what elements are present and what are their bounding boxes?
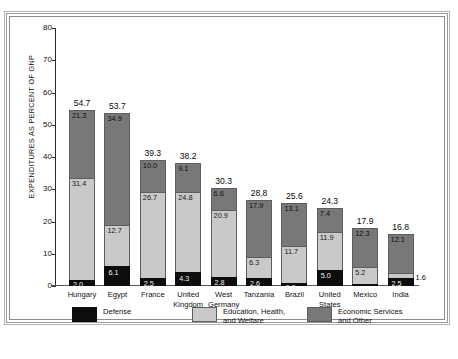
legend-swatch — [72, 307, 97, 322]
bar-total-label: 53.7 — [104, 101, 130, 111]
bar-segment-education: 26.7 — [140, 192, 166, 278]
chart-frame: EXPENDITURES AS PERCENT OF GNP 010203040… — [6, 13, 448, 323]
bar-total-label: 38.2 — [175, 151, 201, 161]
plot-area: 01020304050607080 54.721.331.42.0Hungary… — [55, 28, 427, 286]
segment-value-label: 6.1 — [108, 269, 118, 276]
segment-value-label: 5.0 — [321, 272, 331, 279]
bar-segment-education: 12.7 — [104, 225, 130, 266]
bar-united-kingdom[interactable]: 38.29.124.84.3 — [175, 163, 201, 286]
bar-egypt[interactable]: 53.734.912.76.1 — [104, 113, 130, 286]
bar-segment-education: 20.9 — [211, 210, 237, 277]
bar-segment-defense: 2.6 — [246, 278, 272, 286]
legend-swatch — [192, 307, 217, 322]
bar-segment-defense: 6.1 — [104, 266, 130, 286]
bar-united-states[interactable]: 24.37.411.95.0 — [317, 208, 343, 286]
legend-item-defense[interactable]: Defense — [72, 307, 131, 322]
segment-value-label: 11.9 — [320, 234, 334, 241]
bar-total-label: 54.7 — [69, 98, 95, 108]
y-tick-mark — [52, 254, 56, 255]
y-tick-mark — [52, 93, 56, 94]
segment-value-label: 6.3 — [249, 259, 259, 266]
y-tick-label: 80 — [34, 24, 52, 32]
bar-total-label: 25.6 — [281, 191, 307, 201]
segment-value-label: 12.3 — [355, 230, 369, 237]
segment-value-label: 24.8 — [178, 194, 192, 201]
bar-total-label: 28.8 — [246, 188, 272, 198]
segment-value-label: 2.5 — [144, 280, 154, 287]
bar-segment-defense: 2.8 — [211, 277, 237, 286]
bar-segment-defense: 2.0 — [69, 280, 95, 286]
segment-value-label: 1.6 — [416, 274, 426, 281]
bar-segment-economic: 10.0 — [140, 160, 166, 192]
y-tick-label: 70 — [34, 56, 52, 64]
segment-value-label: 10.0 — [143, 162, 157, 169]
y-tick-mark — [52, 189, 56, 190]
bar-hungary[interactable]: 54.721.331.42.0 — [69, 110, 95, 286]
bar-segment-education: 31.4 — [69, 178, 95, 279]
legend-label: Economic Servicesand Other — [338, 307, 403, 326]
y-tick-label: 60 — [34, 89, 52, 97]
bar-segment-education: 11.7 — [281, 246, 307, 284]
bar-segment-economic: 34.9 — [104, 113, 130, 226]
segment-value-label: 12.7 — [107, 227, 121, 234]
bar-tanzania[interactable]: 28.817.96.32.6 — [246, 200, 272, 286]
segment-value-label: 4.3 — [179, 275, 189, 282]
bar-brazil[interactable]: 25.613.111.70.8 — [281, 203, 307, 286]
bar-total-label: 39.3 — [140, 148, 166, 158]
bar-segment-education: 6.3 — [246, 257, 272, 277]
bar-segment-education: 24.8 — [175, 192, 201, 272]
bar-mexico[interactable]: 17.912.35.20.4 — [352, 228, 378, 286]
legend-item-economic-services[interactable]: Economic Servicesand Other — [307, 307, 403, 326]
y-tick-mark — [52, 60, 56, 61]
legend-swatch — [307, 307, 332, 322]
segment-value-label: 2.5 — [392, 280, 402, 287]
chart-legend: DefenseEducation, Health,and WelfareEcon… — [7, 295, 447, 331]
segment-value-label: 6.6 — [214, 190, 224, 197]
y-tick-label: 50 — [34, 121, 52, 129]
segment-value-label: 9.1 — [178, 165, 188, 172]
bar-segment-economic: 13.1 — [281, 203, 307, 245]
y-tick-label: 30 — [34, 185, 52, 193]
segment-value-label: 34.9 — [107, 115, 121, 122]
y-tick-label: 20 — [34, 218, 52, 226]
bar-segment-defense: 2.5 — [140, 278, 166, 286]
segment-value-label: 2.0 — [73, 281, 83, 288]
segment-value-label: 2.8 — [215, 279, 225, 286]
y-tick-mark — [52, 28, 56, 29]
bar-segment-defense: 2.5 — [388, 278, 414, 286]
y-tick-mark — [52, 286, 56, 287]
bar-segment-education: 5.2 — [352, 267, 378, 284]
bar-total-label: 16.8 — [388, 222, 414, 232]
segment-value-label: 20.9 — [214, 212, 228, 219]
segment-value-label: 13.1 — [284, 205, 298, 212]
bar-segment-defense: 4.3 — [175, 272, 201, 286]
y-tick-mark — [52, 222, 56, 223]
chart-page: EXPENDITURES AS PERCENT OF GNP 010203040… — [0, 0, 458, 359]
segment-value-label: 21.3 — [72, 112, 86, 119]
bar-segment-defense: 0.4 — [352, 284, 378, 286]
segment-value-label: 11.7 — [284, 248, 298, 255]
segment-value-label: 12.1 — [391, 236, 405, 243]
bar-west-germany[interactable]: 30.36.620.92.8 — [211, 188, 237, 286]
segment-value-label: 7.4 — [320, 210, 330, 217]
legend-label: Education, Health,and Welfare — [223, 307, 285, 326]
segment-value-label: 26.7 — [143, 194, 157, 201]
bar-segment-defense: 0.8 — [281, 283, 307, 286]
segment-value-label: 2.6 — [250, 280, 260, 287]
bar-segment-economic: 12.3 — [352, 228, 378, 268]
bar-france[interactable]: 39.310.026.72.5 — [140, 160, 166, 286]
y-tick-label: 0 — [34, 282, 52, 290]
bar-segment-economic: 17.9 — [246, 200, 272, 258]
bar-segment-economic: 9.1 — [175, 163, 201, 192]
bar-india[interactable]: 16.812.11.62.5 — [388, 234, 414, 286]
legend-item-education[interactable]: Education, Health,and Welfare — [192, 307, 285, 326]
y-tick-label: 40 — [34, 153, 52, 161]
bar-segment-economic: 21.3 — [69, 110, 95, 179]
y-tick-mark — [52, 125, 56, 126]
bar-total-label: 30.3 — [211, 176, 237, 186]
segment-value-label: 5.2 — [355, 269, 365, 276]
bar-segment-education: 11.9 — [317, 232, 343, 270]
legend-label: Defense — [103, 307, 131, 316]
bar-segment-economic: 12.1 — [388, 234, 414, 273]
y-tick-mark — [52, 157, 56, 158]
